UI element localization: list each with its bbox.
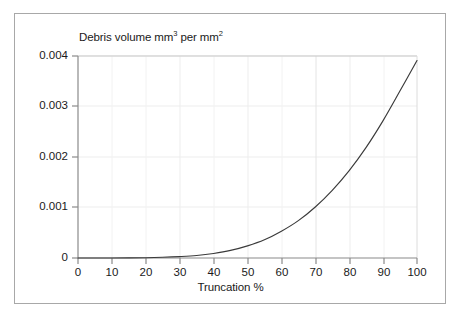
y-axis-title: Debris volume mm3 per mm2 (79, 31, 223, 43)
y-tick-label-2: 0.002 (22, 150, 68, 162)
y-axis-ticks (72, 56, 78, 258)
x-tick-label-100: 100 (397, 266, 437, 278)
y-tick-label-1: 0.001 (22, 200, 68, 212)
y-tick-label-3: 0.003 (22, 99, 68, 111)
x-axis-ticks (78, 258, 417, 264)
x-axis-title: Truncation % (0, 281, 461, 293)
y-tick-label-0: 0 (22, 251, 68, 263)
y-axis-title-middle: per mm (177, 31, 218, 43)
y-axis-title-superscript-2: 2 (219, 29, 223, 38)
y-axis-title-prefix: Debris volume mm (79, 31, 173, 43)
y-tick-label-4: 0.004 (22, 49, 68, 61)
